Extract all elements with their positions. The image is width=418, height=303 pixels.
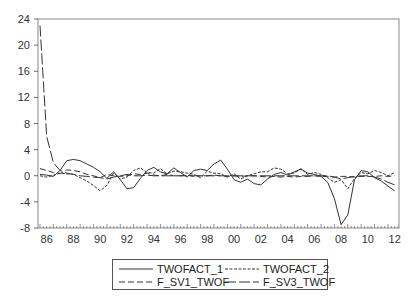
y-tick-label: 24	[18, 13, 30, 25]
dashed-line-swatch-icon	[119, 279, 153, 285]
y-tick-label: 8	[24, 118, 30, 130]
x-tick-label: 02	[255, 233, 267, 245]
x-tick-label: 98	[201, 233, 213, 245]
legend-item-twofact-2: TWOFACT_2	[225, 262, 329, 275]
x-tick-label: 10	[362, 233, 374, 245]
y-tick-label: -4	[20, 196, 30, 208]
legend-item-f-sv3-twof: F_SV3_TWOF	[225, 275, 335, 288]
x-tick-label: 04	[281, 233, 293, 245]
solid-line-swatch-icon	[119, 266, 153, 272]
x-tick-label: 12	[389, 233, 401, 245]
legend-item-f-sv1-twof: F_SV1_TWOF	[119, 275, 229, 288]
y-tick-label: 4	[24, 144, 30, 156]
x-tick-label: 86	[41, 233, 53, 245]
legend-label: F_SV3_TWOF	[263, 276, 335, 288]
x-axis: 8688909294969800020406081012	[40, 224, 401, 245]
legend-label: TWOFACT_2	[263, 263, 329, 275]
x-tick-label: 96	[174, 233, 186, 245]
chart-legend: TWOFACT_1 TWOFACT_2 F_SV1_TWOF F_SV3_TWO…	[112, 259, 328, 290]
legend-item-twofact-1: TWOFACT_1	[119, 262, 223, 275]
series-f-sv3-twof	[40, 26, 395, 185]
long-dash-line-swatch-icon	[225, 279, 259, 285]
y-tick-label: 16	[18, 65, 30, 77]
x-tick-label: 08	[335, 233, 347, 245]
y-tick-label: 20	[18, 39, 30, 51]
x-tick-label: 88	[67, 233, 79, 245]
x-tick-label: 92	[121, 233, 133, 245]
y-axis: -8-404812162024	[18, 13, 38, 234]
legend-label: TWOFACT_1	[157, 263, 223, 275]
dotted-line-swatch-icon	[225, 266, 259, 272]
y-tick-label: -8	[20, 222, 30, 234]
x-tick-label: 00	[228, 233, 240, 245]
series-f-sv1-twof	[40, 169, 395, 178]
legend-label: F_SV1_TWOF	[157, 276, 229, 288]
y-tick-label: 12	[18, 91, 30, 103]
series-twofact-1	[40, 159, 395, 224]
line-chart: -8-404812162024 868890929496980002040608…	[0, 0, 418, 303]
x-tick-label: 94	[148, 233, 160, 245]
series-layer	[40, 26, 395, 225]
y-tick-label: 0	[24, 170, 30, 182]
plot-frame	[38, 19, 399, 228]
x-tick-label: 06	[308, 233, 320, 245]
series-twofact-2	[40, 168, 395, 191]
x-tick-label: 90	[94, 233, 106, 245]
